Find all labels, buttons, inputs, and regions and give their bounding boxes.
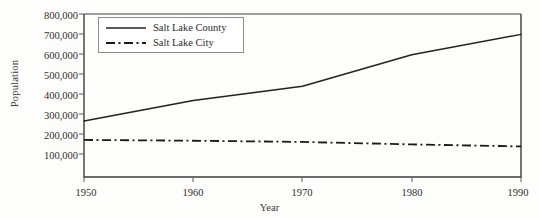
x-tick-label: 1970 — [292, 188, 313, 199]
x-tick-label: 1950 — [76, 188, 97, 199]
x-tick-label: 1990 — [508, 188, 529, 199]
x-axis-title: Year — [0, 202, 539, 213]
x-axis-tick-labels: 1950 1960 1970 1980 1990 — [0, 0, 539, 218]
chart-figure: Population 800,000 700,000 600,000 500,0… — [0, 0, 539, 218]
x-tick-label: 1960 — [183, 188, 204, 199]
x-tick-label: 1980 — [402, 188, 423, 199]
